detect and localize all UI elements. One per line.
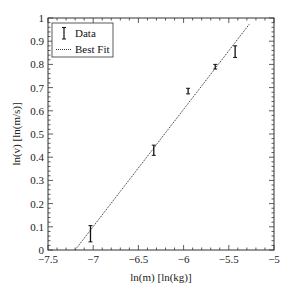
legend-label-data: Data: [75, 27, 96, 39]
chart: −7.5−7−6.5−6−5.5−500.10.20.30.40.50.60.7…: [0, 0, 290, 292]
y-tick-label: 0.4: [30, 151, 44, 163]
x-tick-label: −6.5: [128, 253, 148, 265]
errorbar-point: [233, 46, 237, 58]
y-tick-label: 0.5: [30, 128, 44, 140]
y-tick-label: 0.6: [30, 105, 44, 117]
x-axis-label: ln(m) [ln(kg)]: [130, 271, 191, 284]
x-tick-label: −6: [178, 253, 190, 265]
x-tick-label: −5.5: [219, 253, 239, 265]
y-tick-label: 0.7: [30, 82, 44, 94]
legend-label-best-fit: Best Fit: [75, 43, 110, 55]
errorbar-point: [186, 88, 190, 94]
x-tick-label: −7: [87, 253, 99, 265]
y-tick-label: 0.8: [30, 58, 44, 70]
data-errorbars: [88, 46, 237, 242]
y-tick-label: 1: [39, 12, 45, 24]
y-tick-label: 0.2: [30, 198, 44, 210]
y-tick-label: 0.3: [30, 174, 44, 186]
x-tick-label: −5: [268, 253, 280, 265]
y-tick-label: 0.1: [30, 221, 44, 233]
legend: Data Best Fit: [52, 23, 113, 57]
y-tick-label: 0.9: [30, 35, 44, 47]
y-tick-label: 0: [39, 244, 45, 256]
errorbar-point: [88, 226, 92, 242]
best-fit-line: [75, 24, 249, 250]
y-axis-label: ln(v) [ln(m/s)]: [10, 102, 23, 165]
